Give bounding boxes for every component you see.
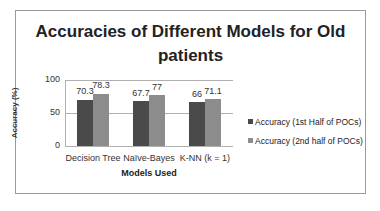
chart-title-line-2: patients (15, 46, 366, 66)
data-label: 78.3 (86, 80, 116, 90)
bar-naive-bayes-1st (133, 101, 149, 146)
plot-area: 70.3 78.3 67.7 77 66 71.1 (65, 80, 233, 146)
chart-title-line-1: Accuracies of Different Models for Old (15, 22, 366, 42)
y-axis-line (65, 80, 66, 146)
legend-item-1st-half: Accuracy (1st Half of POCs) (248, 112, 363, 131)
legend: Accuracy (1st Half of POCs) Accuracy (2n… (248, 112, 363, 150)
x-tick-knn: K-NN (k = 1) (175, 153, 235, 163)
y-tick-100: 100 (36, 74, 60, 84)
legend-swatch-1st (248, 119, 253, 124)
x-axis-label: Models Used (65, 168, 233, 178)
gridline-0 (65, 146, 233, 147)
x-tick-naive-bayes: Naïve-Bayes (119, 153, 179, 163)
legend-item-2nd-half: Accuracy (2nd half of POCs) (248, 131, 363, 150)
legend-label-1st: Accuracy (1st Half of POCs) (255, 117, 361, 127)
y-tick-0: 0 (36, 140, 60, 150)
bar-decision-tree-2nd (93, 94, 109, 146)
bar-naive-bayes-2nd (149, 95, 165, 146)
y-axis-label: Accuracy (%) (10, 88, 19, 139)
legend-label-2nd: Accuracy (2nd half of POCs) (255, 136, 363, 146)
legend-swatch-2nd (248, 138, 253, 143)
bar-decision-tree-1st (77, 100, 93, 146)
x-tick-decision-tree: Decision Tree (63, 153, 123, 163)
data-label: 77 (142, 82, 172, 92)
data-label: 71.1 (198, 86, 228, 96)
bar-knn-2nd (205, 99, 221, 146)
bar-knn-1st (189, 102, 205, 146)
y-tick-50: 50 (36, 107, 60, 117)
